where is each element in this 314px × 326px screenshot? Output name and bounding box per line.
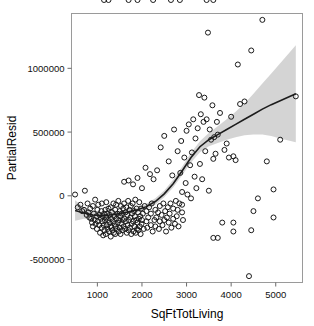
x-axis-title: SqFtTotLiving: [151, 307, 224, 321]
figure-background: [0, 0, 314, 326]
x-tick-label: 3000: [176, 289, 197, 300]
y-tick-label: -500000: [30, 254, 65, 265]
scatter-plot-figure: 10002000300040005000 -500000050000010000…: [0, 0, 314, 326]
plot-canvas: 10002000300040005000 -500000050000010000…: [0, 0, 314, 326]
x-tick-label: 2000: [131, 289, 152, 300]
x-tick-label: 5000: [265, 289, 286, 300]
y-tick-label: 0: [59, 190, 64, 201]
x-tick-label: 1000: [87, 289, 108, 300]
y-tick-label: 1000000: [28, 63, 65, 74]
x-tick-label: 4000: [221, 289, 242, 300]
y-axis-title: PartialResid: [5, 116, 19, 181]
y-tick-label: 500000: [33, 127, 65, 138]
